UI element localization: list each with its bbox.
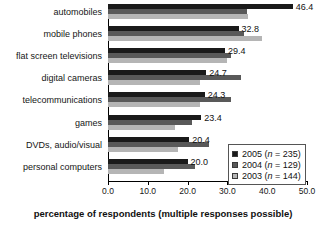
bar-2003-0 (108, 14, 248, 19)
x-tick-2 (188, 181, 189, 185)
x-tick-label-0: 0.0 (102, 186, 114, 196)
category-label-6: DVDs, audio/visual (26, 140, 102, 150)
category-label-5: games (75, 118, 102, 128)
category-label-7: personal computers (23, 162, 102, 172)
x-tick-label-5: 50.0 (299, 186, 316, 196)
category-label-3: digital cameras (41, 73, 102, 83)
value-label-7: 20.0 (191, 157, 209, 167)
x-tick-0 (108, 181, 109, 185)
bar-2003-3 (108, 80, 200, 85)
x-axis-title: percentage of respondents (multiple resp… (0, 208, 326, 219)
bar-2003-1 (108, 36, 262, 41)
value-label-3: 24.7 (209, 68, 227, 78)
x-tick-label-3: 30.0 (219, 186, 236, 196)
x-tick-1 (148, 181, 149, 185)
value-label-4: 24.3 (208, 90, 226, 100)
value-label-2: 29.4 (228, 46, 246, 56)
x-tick-5 (307, 181, 308, 185)
x-tick-label-4: 40.0 (259, 186, 276, 196)
legend-label-2003: 2003 (n = 144) (242, 171, 301, 181)
legend-label-2004: 2004 (n = 129) (242, 160, 301, 170)
bar-2003-2 (108, 58, 227, 63)
legend-swatch-2005 (232, 151, 238, 157)
bar-2003-6 (108, 147, 178, 152)
bar-2003-4 (108, 102, 200, 107)
legend-item-2005: 2005 (n = 235) (232, 148, 301, 159)
value-label-0: 46.4 (296, 2, 314, 12)
category-label-4: telecommunications (22, 95, 102, 105)
value-label-1: 32.8 (242, 24, 260, 34)
chart-legend: 2005 (n = 235) 2004 (n = 129) 2003 (n = … (228, 144, 306, 185)
legend-swatch-2004 (232, 162, 238, 168)
category-label-2: flat screen televisions (16, 51, 102, 61)
bar-2003-7 (108, 169, 164, 174)
category-label-1: mobile phones (43, 29, 102, 39)
bar-2003-5 (108, 125, 175, 130)
x-tick-label-2: 20.0 (179, 186, 196, 196)
x-tick-label-1: 10.0 (140, 186, 157, 196)
category-axis-labels: automobilesmobile phonesflat screen tele… (0, 0, 105, 181)
legend-swatch-2003 (232, 173, 238, 179)
bar-chart: automobilesmobile phonesflat screen tele… (0, 0, 326, 233)
legend-item-2004: 2004 (n = 129) (232, 159, 301, 170)
legend-label-2005: 2005 (n = 235) (242, 149, 301, 159)
value-label-6: 20.4 (192, 135, 210, 145)
category-label-0: automobiles (53, 7, 102, 17)
value-label-5: 23.4 (204, 113, 222, 123)
legend-item-2003: 2003 (n = 144) (232, 170, 301, 181)
